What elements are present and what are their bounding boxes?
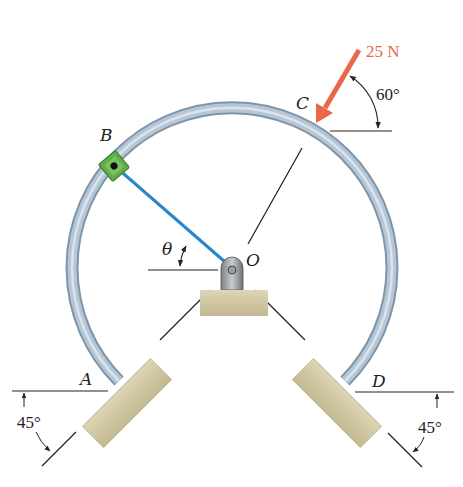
theta-arc [180, 246, 186, 266]
label-o: O [246, 250, 260, 270]
a-support-extension [42, 432, 76, 466]
oc-guide-line [248, 148, 302, 244]
label-a: A [78, 369, 92, 389]
support-a [82, 358, 171, 447]
left-angle-arrow-bottom [36, 432, 50, 451]
label-b: B [99, 125, 113, 145]
d-support-extension [388, 433, 422, 467]
label-d: D [371, 371, 386, 391]
base-block [200, 290, 268, 316]
force-angle-label: 60° [376, 85, 400, 104]
force-label: 25 N [366, 42, 400, 61]
label-c: C [296, 93, 309, 113]
theta-label: θ [162, 239, 172, 259]
force-angle-arc [350, 76, 378, 128]
left-angle-label: 45° [17, 413, 41, 432]
support-d [292, 358, 381, 447]
right-angle-arrow-bottom [413, 437, 424, 452]
rod-ob [117, 168, 232, 268]
diagram-canvas: θ O 45° A 45° D 25 N 60° C B [0, 0, 463, 487]
right-angle-label: 45° [418, 418, 442, 437]
circular-rod [72, 108, 392, 381]
